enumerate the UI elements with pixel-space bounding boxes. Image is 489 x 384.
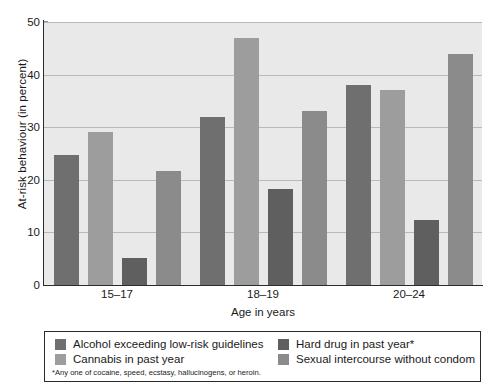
legend-swatch <box>55 339 66 350</box>
y-tick-label: 20 <box>8 174 40 186</box>
x-tick-label: 18–19 <box>247 288 279 300</box>
bar <box>88 132 113 285</box>
bar <box>234 38 259 285</box>
y-tick-label: 50 <box>8 16 40 28</box>
y-tick-label: 40 <box>8 69 40 81</box>
legend-label: Cannabis in past year <box>73 353 184 365</box>
legend-footnote: *Any one of cocaine, speed, ecstasy, hal… <box>52 368 261 377</box>
bar <box>54 155 79 285</box>
y-tick-label: 30 <box>8 121 40 133</box>
bar <box>200 117 225 285</box>
bar-chart-figure: At-risk behaviour (in percent) 010203040… <box>0 0 489 384</box>
y-tick-label: 10 <box>8 226 40 238</box>
bar <box>302 111 327 285</box>
bar <box>346 85 371 285</box>
legend-label: Sexual intercourse without condom <box>296 353 475 365</box>
legend-item: Sexual intercourse without condom <box>278 353 475 365</box>
legend-swatch <box>55 354 66 365</box>
legend-item: Alcohol exceeding low-risk guidelines <box>55 338 264 350</box>
bar <box>156 171 181 285</box>
plot-region: At-risk behaviour (in percent) 010203040… <box>0 0 489 322</box>
x-axis-line <box>43 285 483 286</box>
x-tick-label: 20–24 <box>393 288 425 300</box>
legend-swatch <box>278 354 289 365</box>
y-tick-label: 0 <box>8 279 40 291</box>
legend-label: Alcohol exceeding low-risk guidelines <box>73 338 264 350</box>
bar <box>380 90 405 285</box>
x-tick-label: 15–17 <box>101 288 133 300</box>
legend-label: Hard drug in past year* <box>296 338 414 350</box>
bar <box>122 258 147 285</box>
bars-container <box>44 22 482 285</box>
legend-item: Hard drug in past year* <box>278 338 414 350</box>
legend-swatch <box>278 339 289 350</box>
legend: *Any one of cocaine, speed, ecstasy, hal… <box>44 331 481 382</box>
legend-item: Cannabis in past year <box>55 353 184 365</box>
bar <box>448 54 473 285</box>
y-axis-tick-labels: 01020304050 <box>8 16 40 286</box>
x-axis-tick-labels: 15–1718–1920–24 <box>44 288 482 306</box>
bar <box>268 189 293 285</box>
bar <box>414 220 439 285</box>
x-axis-title: Age in years <box>44 306 482 318</box>
